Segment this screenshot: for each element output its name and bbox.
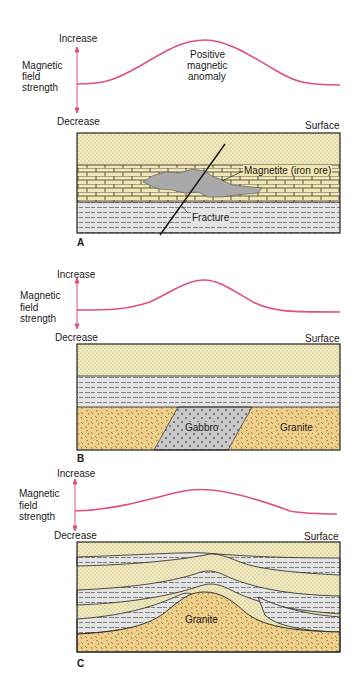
panel-a-decrease-label: Decrease (57, 116, 100, 127)
panel-c (73, 479, 340, 652)
panel-b-axis-title-3: strength (20, 313, 56, 324)
panel-b-cross-section (77, 344, 340, 450)
panel-a-surface-label: Surface (305, 120, 339, 131)
panel-c-axis-title-1: Magnetic (19, 488, 60, 499)
panel-c-axis-title-3: strength (19, 511, 55, 522)
panel-b-decrease-label: Decrease (55, 332, 98, 343)
panel-c-decrease-label: Decrease (54, 530, 97, 541)
panel-a-axis-title-2: field (22, 71, 40, 82)
magnetite-label: Magnetite (iron ore) (243, 165, 332, 176)
panel-c-increase-label: Increase (57, 468, 95, 479)
panel-b-axis-title-2: field (20, 302, 38, 313)
fracture-label: Fracture (191, 212, 230, 223)
panel-b-increase-label: Increase (57, 269, 95, 280)
panel-c-letter: C (77, 658, 84, 669)
anomaly-label-2: magnetic (187, 60, 228, 71)
panel-c-cross-section (77, 542, 340, 652)
panel-c-axis-title-2: field (19, 500, 37, 511)
panel-a-increase-label: Increase (59, 33, 97, 44)
panel-b-axis-arrows (75, 278, 79, 329)
diagram-canvas (0, 0, 356, 678)
gabbro-label: Gabbro (185, 422, 218, 433)
panel-b-letter: B (77, 453, 84, 464)
panel-b-surface-label: Surface (305, 333, 339, 344)
panel-c-surface-label: Surface (304, 531, 338, 542)
panel-a-axis-title-1: Magnetic (22, 60, 63, 71)
anomaly-label-1: Positive (190, 49, 225, 60)
panel-a-letter: A (77, 237, 84, 248)
panel-a-axis-title-3: strength (22, 82, 58, 93)
panel-b-granite-label: Granite (280, 422, 313, 433)
panel-c-magnetic-curve (75, 489, 337, 514)
panel-c-granite-label: Granite (185, 614, 218, 625)
panel-b-axis-title-1: Magnetic (20, 290, 61, 301)
panel-b-magnetic-curve (77, 280, 340, 312)
panel-a-axis-arrows (75, 47, 79, 113)
panel-c-axis-arrows (73, 479, 77, 531)
anomaly-label-3: anomaly (188, 71, 226, 82)
